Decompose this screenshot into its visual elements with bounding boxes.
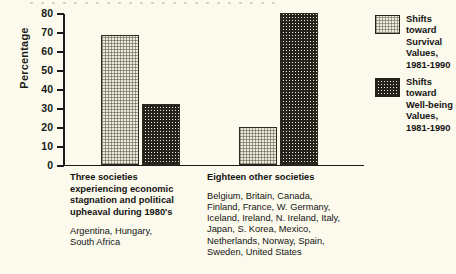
y-tick-70: 70 [57, 32, 64, 34]
y-tick-label-30: 30 [41, 102, 53, 114]
y-tick-0: 0 [57, 165, 64, 167]
legend-label-survival: Shifts toward Survival Values, 1981-1990 [406, 14, 455, 71]
y-tick-label-60: 60 [41, 45, 53, 57]
legend-swatch-icon-survival [375, 15, 400, 34]
group-members-other-societies: Belgium, Britain, Canada, Finland, Franc… [207, 191, 367, 259]
y-tick-label-20: 20 [41, 121, 53, 133]
group-caption-stagnation: Three societies experiencing economic st… [70, 172, 202, 249]
group-members-stagnation: Argentina, Hungary, South Africa [70, 226, 202, 249]
plot-area: 01020304050607080 [63, 14, 364, 166]
scan-artifact [30, 2, 280, 4]
y-tick-label-50: 50 [41, 64, 53, 76]
y-tick-10: 10 [57, 146, 64, 148]
chart-legend: Shifts toward Survival Values, 1981-1990… [375, 14, 455, 140]
x-axis-line [63, 165, 364, 167]
y-tick-30: 30 [57, 108, 64, 110]
legend-label-wellbeing: Shifts toward Well-being Values, 1981-19… [406, 77, 455, 134]
y-tick-label-0: 0 [47, 159, 53, 171]
y-tick-80: 80 [57, 13, 64, 15]
group-title-stagnation: Three societies experiencing economic st… [70, 172, 202, 218]
bar-survival-group-0 [101, 35, 139, 164]
bar-survival-group-1 [239, 127, 277, 165]
legend-item-wellbeing-values: Shifts toward Well-being Values, 1981-19… [375, 77, 455, 134]
y-tick-label-10: 10 [41, 140, 53, 152]
bar-wellbeing-group-0 [142, 104, 180, 165]
y-tick-50: 50 [57, 70, 64, 72]
legend-item-survival-values: Shifts toward Survival Values, 1981-1990 [375, 14, 455, 71]
y-tick-label-80: 80 [41, 7, 53, 19]
group-caption-other-societies: Eighteen other societies Belgium, Britai… [207, 172, 367, 258]
y-tick-40: 40 [57, 89, 64, 91]
y-tick-60: 60 [57, 51, 64, 53]
y-tick-label-70: 70 [41, 26, 53, 38]
legend-swatch-icon-wellbeing [375, 78, 400, 97]
bar-wellbeing-group-1 [280, 13, 318, 165]
y-tick-label-40: 40 [41, 83, 53, 95]
y-axis-label: Percentage [18, 10, 30, 106]
bar-chart: Percentage 01020304050607080 Shifts towa… [0, 0, 456, 274]
group-title-other-societies: Eighteen other societies [207, 172, 367, 184]
y-tick-20: 20 [57, 127, 64, 129]
